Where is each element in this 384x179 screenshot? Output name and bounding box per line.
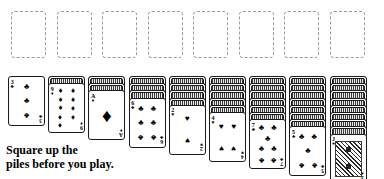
card-pip: ♦	[71, 113, 75, 121]
court-card-illustration-jack	[335, 141, 362, 177]
card-pip: ♣	[259, 156, 264, 164]
card-pip: ♣	[24, 97, 29, 105]
card-index-bottom-right: 7♣	[280, 157, 283, 167]
card-pip: ♣	[305, 147, 310, 155]
card-pip-grid: ♦♦♦♦♦♦♦♦♦	[54, 87, 79, 129]
face-up-card-5-clubs[interactable]: 5♣5♣♣♣♣♣♣	[289, 126, 326, 176]
face-up-card-9-diamonds[interactable]: 9♦9♦♦♦♦♦♦♦♦♦♦	[48, 83, 85, 133]
face-up-card-A-diamonds[interactable]: A♦A♦♦	[88, 90, 125, 140]
card-pip-grid: ♣♣♣♣♣♣♣	[255, 123, 280, 165]
card-pip: ♥	[231, 123, 236, 131]
card-index-bottom-right: 4♥	[241, 150, 244, 160]
court-figure	[336, 142, 361, 176]
card-pip: ♦	[58, 121, 62, 129]
card-index-bottom-right: 5♣	[321, 164, 324, 174]
card-pip: ♦	[71, 96, 75, 104]
card-index-bottom-right: 2♥	[200, 142, 203, 152]
face-up-card-3-clubs[interactable]: 3♣3♣♣♣♣	[8, 76, 45, 126]
card-pip: ♣	[138, 119, 143, 127]
caption-line-2: piles before you play.	[6, 157, 176, 171]
card-pip: ♥	[185, 115, 190, 123]
instruction-caption: Square up the piles before you play.	[6, 143, 176, 171]
card-pip: ♣	[312, 133, 317, 141]
card-pip: ♣	[299, 133, 304, 141]
card-pip: ♥	[219, 123, 224, 131]
card-pip-grid: ♣♣♣♣♣♣	[135, 102, 160, 144]
card-pip: ♣	[259, 145, 264, 153]
card-pip-grid: ♣♣♣♣♣	[295, 130, 320, 172]
card-pip: ♥	[219, 144, 224, 152]
face-up-card-7-clubs[interactable]: 7♣7♣♣♣♣♣♣♣♣	[249, 119, 286, 169]
face-up-card-6-clubs[interactable]: 6♣6♣♣♣♣♣♣♣	[129, 98, 166, 148]
card-pip: ♦	[102, 106, 112, 125]
card-pip: ♦	[71, 104, 75, 112]
card-pip: ♣	[151, 105, 156, 113]
card-pip: ♣	[138, 133, 143, 141]
card-pip: ♣	[151, 133, 156, 141]
card-pip-grid: ♦	[94, 94, 119, 136]
card-pip-grid: ♥♥	[175, 109, 200, 151]
solitaire-board: 3♣3♣♣♣♣9♦9♦♦♦♦♦♦♦♦♦♦A♦A♦♦6♣6♣♣♣♣♣♣♣2♥2♥♥…	[0, 0, 384, 179]
card-pip: ♥	[231, 144, 236, 152]
card-pip: ♣	[271, 145, 276, 153]
card-pip: ♣	[299, 161, 304, 169]
card-index-bottom-right: 3♣	[39, 114, 42, 124]
card-pip: ♣	[24, 111, 29, 119]
card-pip: ♦	[58, 113, 62, 121]
face-up-card-J-spades[interactable]: J♠J♠	[330, 134, 367, 179]
card-pip: ♣	[151, 119, 156, 127]
card-pip-grid: ♥♥♥♥	[215, 116, 240, 158]
card-pip: ♣	[259, 124, 264, 132]
card-pip: ♣	[312, 161, 317, 169]
card-pip: ♥	[185, 136, 190, 144]
card-index-bottom-right: 9♦	[80, 121, 83, 131]
card-pip: ♣	[24, 83, 29, 91]
face-up-card-4-hearts[interactable]: 4♥4♥♥♥♥♥	[209, 112, 246, 162]
card-pip: ♣	[265, 135, 270, 143]
card-pip: ♣	[271, 156, 276, 164]
card-pip: ♣	[271, 124, 276, 132]
card-pip: ♣	[138, 105, 143, 113]
card-pip-grid: ♣♣♣	[14, 80, 39, 122]
card-pip: ♦	[58, 104, 62, 112]
caption-line-1: Square up the	[6, 143, 176, 157]
